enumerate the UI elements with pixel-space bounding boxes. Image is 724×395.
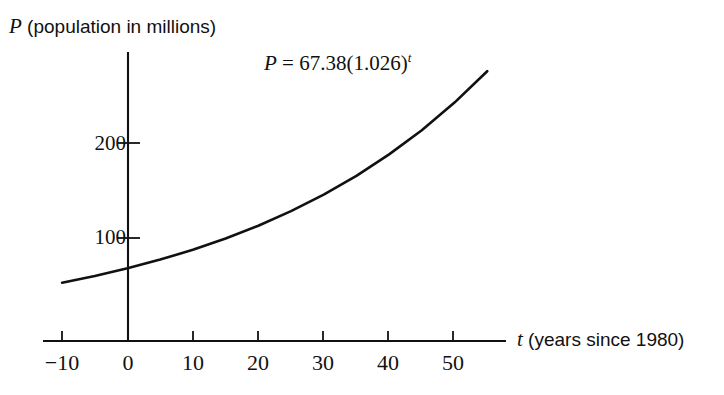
exponential-curve: [62, 71, 487, 283]
plot-area: [0, 0, 724, 395]
chart-figure: P (population in millions) t (years sinc…: [0, 0, 724, 395]
